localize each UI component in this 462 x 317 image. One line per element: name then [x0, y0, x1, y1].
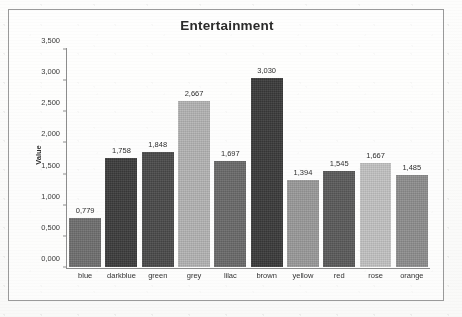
bar-lilac[interactable]: 1,697: [214, 161, 246, 267]
bar-rose[interactable]: 1,667: [360, 163, 392, 267]
bar-group-darkblue[interactable]: 1,758: [103, 49, 139, 267]
bar-value-label-yellow: 1,394: [294, 168, 313, 177]
bar-brown[interactable]: 3,030: [251, 78, 283, 267]
bar-group-brown[interactable]: 3,030: [248, 49, 284, 267]
x-axis-line: [66, 268, 430, 269]
y-tick-label: 0,500: [41, 222, 67, 231]
bar-value-label-brown: 3,030: [257, 66, 276, 75]
y-tick-label: 2,000: [41, 129, 67, 138]
y-tick-label: 3,000: [41, 67, 67, 76]
bar-orange[interactable]: 1,485: [396, 175, 428, 267]
bar-value-label-darkblue: 1,758: [112, 146, 131, 155]
bar-red[interactable]: 1,545: [323, 171, 355, 267]
bar-group-lilac[interactable]: 1,697: [212, 49, 248, 267]
bar-value-label-grey: 2,667: [185, 89, 204, 98]
bar-grey[interactable]: 2,667: [178, 101, 210, 267]
x-category-label-yellow: yellow: [285, 271, 321, 280]
bar-value-label-blue: 0,779: [76, 206, 95, 215]
bar-group-green[interactable]: 1,848: [140, 49, 176, 267]
y-tick-label: 1,000: [41, 191, 67, 200]
chart-title: Entertainment: [9, 18, 445, 33]
bar-group-yellow[interactable]: 1,394: [285, 49, 321, 267]
x-category-label-blue: blue: [67, 271, 103, 280]
bar-group-rose[interactable]: 1,667: [357, 49, 393, 267]
bar-darkblue[interactable]: 1,758: [105, 158, 137, 267]
x-category-label-darkblue: darkblue: [103, 271, 139, 280]
x-category-label-orange: orange: [394, 271, 430, 280]
bar-group-red[interactable]: 1,545: [321, 49, 357, 267]
bar-group-grey[interactable]: 2,667: [176, 49, 212, 267]
x-category-label-lilac: lilac: [212, 271, 248, 280]
bar-value-label-orange: 1,485: [402, 163, 421, 172]
y-tick-label: 2,500: [41, 98, 67, 107]
x-category-label-red: red: [321, 271, 357, 280]
x-category-label-green: green: [140, 271, 176, 280]
x-category-label-grey: grey: [176, 271, 212, 280]
bar-value-label-rose: 1,667: [366, 151, 385, 160]
x-category-label-brown: brown: [248, 271, 284, 280]
bar-value-label-lilac: 1,697: [221, 149, 240, 158]
plot-area: 0,0000,5001,0001,5002,0002,5003,0003,500…: [67, 49, 430, 267]
bar-value-label-red: 1,545: [330, 159, 349, 168]
bar-series: 0,7791,7581,8482,6671,6973,0301,3941,545…: [67, 49, 430, 267]
chart-frame: Entertainment Value 0,0000,5001,0001,500…: [8, 9, 444, 301]
y-tick-label: 0,000: [41, 254, 67, 263]
bar-group-blue[interactable]: 0,779: [67, 49, 103, 267]
bar-green[interactable]: 1,848: [142, 152, 174, 267]
y-tick-label: 1,500: [41, 160, 67, 169]
scanned-chart-page: Entertainment Value 0,0000,5001,0001,500…: [0, 0, 462, 317]
x-axis-categories: bluedarkbluegreengreylilacbrownyellowred…: [67, 271, 430, 280]
y-tick-label: 3,500: [41, 36, 67, 45]
bar-value-label-green: 1,848: [148, 140, 167, 149]
x-category-label-rose: rose: [357, 271, 393, 280]
bar-blue[interactable]: 0,779: [69, 218, 101, 267]
bar-group-orange[interactable]: 1,485: [394, 49, 430, 267]
bar-yellow[interactable]: 1,394: [287, 180, 319, 267]
